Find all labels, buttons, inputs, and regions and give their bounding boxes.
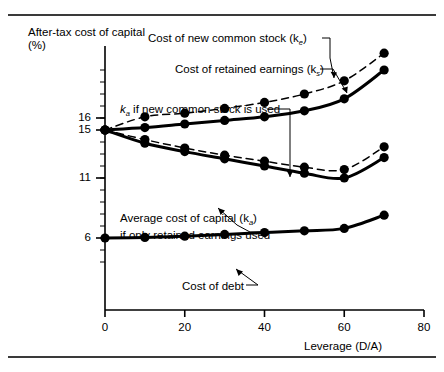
data-point [220, 154, 229, 163]
annotation-avg-line1: Average cost of capital (k [120, 212, 249, 224]
y-tick-label-16: 16 [69, 111, 91, 123]
x-tick-label-60: 60 [333, 321, 355, 333]
data-point [380, 153, 389, 162]
data-point [340, 76, 349, 85]
data-point [100, 233, 109, 242]
data-point [380, 49, 389, 58]
x-axis-title: Leverage (D/A) [304, 340, 382, 353]
data-point [300, 226, 309, 235]
annotation-cost-retained-earnings: Cost of retained earnings (ks) [175, 63, 324, 80]
data-point [340, 165, 349, 174]
y-axis-major-ticks [96, 118, 105, 238]
y-tick-label-15: 15 [69, 123, 91, 135]
data-point [260, 161, 269, 170]
data-point [180, 147, 189, 156]
data-point [380, 65, 389, 74]
x-tick-label-20: 20 [174, 321, 196, 333]
data-point [300, 169, 309, 178]
annotation-retained-text: Cost of retained earnings (k [175, 63, 316, 75]
annotation-ka-new-common-stock: ka if new common stock is used [120, 103, 280, 120]
data-point [100, 125, 109, 134]
data-point [300, 89, 309, 98]
y-tick-label-11: 11 [69, 171, 91, 183]
x-tick-label-80: 80 [413, 321, 435, 333]
annotation-avg-line1-tail: ) [253, 212, 257, 224]
chart-series-3 [100, 125, 388, 182]
data-point [380, 142, 389, 151]
data-point [180, 119, 189, 128]
annotation-new-stock-tail: ) [303, 32, 307, 44]
x-axis-major-ticks [105, 310, 424, 317]
annotation-cost-new-common-stock: Cost of new common stock (ke) [148, 32, 307, 49]
x-tick-label-0: 0 [94, 321, 116, 333]
annotation-retained-tail: ) [320, 63, 324, 75]
annotation-ka-tail: if new common stock is used [130, 103, 280, 115]
annotation-new-stock-text: Cost of new common stock (k [148, 32, 299, 44]
annotation-cost-of-debt: Cost of debt [182, 280, 244, 293]
data-point [300, 106, 309, 115]
figure-container: After-tax cost of capital (%) Cost of ne… [0, 0, 444, 372]
data-point [340, 224, 349, 233]
chart-axes [105, 46, 424, 310]
y-axis-title: After-tax cost of capital (%) [28, 26, 148, 52]
data-point [140, 123, 149, 132]
chart-plot-area [0, 0, 444, 372]
data-point [380, 211, 389, 220]
annotation-average-cost-of-capital: Average cost of capital (ka)if only reta… [120, 212, 295, 242]
x-tick-label-40: 40 [254, 321, 276, 333]
data-point [340, 94, 349, 103]
y-tick-label-6: 6 [69, 231, 91, 243]
annotation-avg-line2: if only retained earnings used [120, 229, 270, 241]
chart-series-2 [100, 125, 388, 174]
data-point [340, 173, 349, 182]
data-point [140, 139, 149, 148]
